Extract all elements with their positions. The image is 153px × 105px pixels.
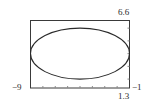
y-max-label: 6.6	[118, 8, 129, 17]
plot-area	[0, 0, 153, 105]
y-min-label: 1.3	[118, 92, 129, 101]
x-min-label: −9	[12, 83, 22, 92]
x-max-label: −1	[132, 83, 142, 92]
plot-frame	[31, 21, 130, 89]
ellipse-curve	[31, 28, 130, 79]
